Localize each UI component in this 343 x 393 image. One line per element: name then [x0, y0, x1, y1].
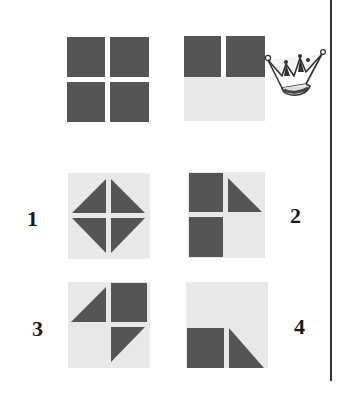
- square-bottom-left: [67, 82, 105, 122]
- option-3-figure[interactable]: [68, 282, 150, 368]
- square-top-right: [110, 37, 149, 77]
- option-label-2: 2: [290, 205, 301, 227]
- square-bottom-right: [110, 82, 149, 122]
- square-top-right: [111, 283, 147, 322]
- option-4-figure[interactable]: [186, 282, 268, 368]
- given-figure-full: [67, 37, 149, 122]
- light-background: [68, 173, 150, 259]
- square-top-left: [67, 37, 105, 77]
- crown-icon: [264, 48, 328, 108]
- option-label-1: 1: [27, 208, 38, 230]
- option-1-figure[interactable]: [68, 173, 150, 259]
- gap: [221, 36, 226, 77]
- option-label-3: 3: [32, 318, 43, 340]
- option-label-4: 4: [294, 316, 305, 338]
- square-top-right: [226, 36, 265, 77]
- square-bottom-left: [187, 328, 224, 368]
- option-2-figure[interactable]: [188, 172, 265, 258]
- square-bottom-left: [189, 217, 223, 257]
- square-top-left: [184, 36, 221, 77]
- square-top-left: [189, 173, 223, 212]
- given-figure-half: [184, 36, 265, 121]
- divider-line: [330, 0, 332, 381]
